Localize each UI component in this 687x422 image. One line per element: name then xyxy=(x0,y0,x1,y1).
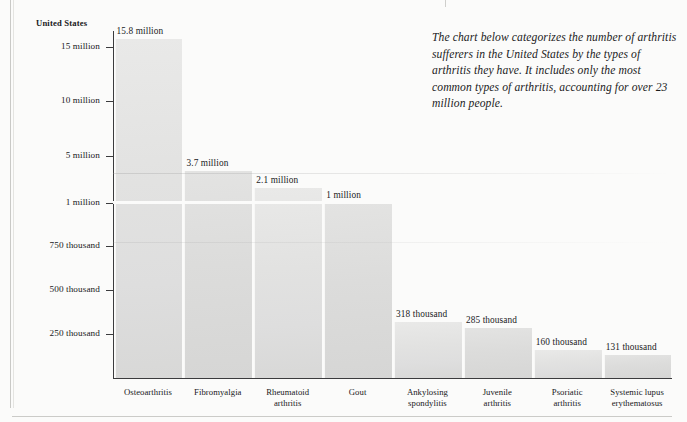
x-axis-category-label-line: arthritis xyxy=(245,398,331,409)
bar xyxy=(254,188,322,378)
bar xyxy=(534,350,602,378)
bar-value-label: 318 thousand xyxy=(396,309,447,319)
y-axis-label-wrap: 750 thousand xyxy=(0,240,104,250)
bar-value-label: 1 million xyxy=(326,190,361,200)
y-axis-label-wrap: 5 million xyxy=(0,150,104,160)
y-axis-label: 15 million xyxy=(0,41,104,51)
bar-value-label: 131 thousand xyxy=(606,342,657,352)
bar xyxy=(115,39,183,378)
page-bottom-rule xyxy=(12,416,672,417)
bar-value-label: 15.8 million xyxy=(117,26,164,36)
chart-page: United States 15 million10 million5 mill… xyxy=(0,0,687,422)
x-axis-category-label-line: erythematosus xyxy=(594,398,680,409)
y-axis-label-wrap: 1 million xyxy=(0,197,104,207)
bar xyxy=(464,328,532,378)
y-axis-label: 750 thousand xyxy=(0,240,104,250)
bar-value-label: 2.1 million xyxy=(256,175,298,185)
y-axis-label-wrap: 15 million xyxy=(0,41,104,51)
x-axis-category-label-line: Systemic lupus xyxy=(594,387,680,398)
y-axis-label: 5 million xyxy=(0,150,104,160)
page-top-tick-mark xyxy=(445,0,446,7)
bar xyxy=(604,355,672,378)
bar-value-label: 285 thousand xyxy=(466,315,517,325)
bar xyxy=(394,322,462,378)
bar-value-label: 160 thousand xyxy=(536,337,587,347)
scan-smudge-line xyxy=(113,173,672,174)
x-axis-category-label: Systemic lupuserythematosus xyxy=(594,387,680,410)
scan-smudge-line-lower xyxy=(113,242,672,243)
x-axis-line xyxy=(113,378,672,379)
y-axis-label-wrap: 500 thousand xyxy=(0,284,104,294)
y-axis-label: 1 million xyxy=(0,197,104,207)
y-axis-label-wrap: 250 thousand xyxy=(0,328,104,338)
bar-value-label: 3.7 million xyxy=(186,158,228,168)
bar xyxy=(324,203,392,378)
y-axis-label: 250 thousand xyxy=(0,328,104,338)
y-axis-label: 10 million xyxy=(0,95,104,105)
y-axis-label: 500 thousand xyxy=(0,284,104,294)
y-axis-label-wrap: 10 million xyxy=(0,95,104,105)
description-note: The chart below categorizes the number o… xyxy=(432,30,678,113)
y-axis-caption: United States xyxy=(36,18,87,28)
axis-break-band xyxy=(113,201,672,204)
